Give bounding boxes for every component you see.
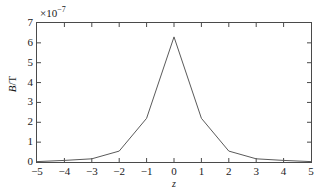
y-axis-tick-label: 6 xyxy=(11,36,33,48)
y-axis-tick-label: 2 xyxy=(11,115,33,127)
x-axis-tick-label: −4 xyxy=(53,165,75,177)
x-axis-tick-label: 3 xyxy=(245,165,267,177)
chart-figure: ×10−7 B/T z 01234567 −5−4−3−2−1012345 xyxy=(0,0,331,195)
x-axis-tick-label: 2 xyxy=(218,165,240,177)
y-axis-multiplier-exponent: −7 xyxy=(57,5,66,14)
x-axis-tick-label: 5 xyxy=(300,165,322,177)
y-axis-tick-label: 1 xyxy=(11,135,33,147)
y-axis-tick-label: 4 xyxy=(11,76,33,88)
y-axis-tick-label: 5 xyxy=(11,56,33,68)
plot-canvas xyxy=(37,23,311,162)
y-axis-multiplier-base: ×10 xyxy=(40,7,57,19)
y-axis-tick-label: 7 xyxy=(11,16,33,28)
x-axis-tick-label: −1 xyxy=(136,165,158,177)
axis-ticks xyxy=(37,23,311,162)
y-axis-multiplier-label: ×10−7 xyxy=(40,5,66,19)
y-axis-tick-label: 3 xyxy=(11,95,33,107)
x-axis-tick-label: 0 xyxy=(163,165,185,177)
x-axis-tick-label: 4 xyxy=(273,165,295,177)
data-series-line xyxy=(37,37,311,162)
x-axis-tick-label: −2 xyxy=(108,165,130,177)
x-axis-title: z xyxy=(152,178,196,189)
x-axis-tick-label: 1 xyxy=(190,165,212,177)
x-axis-tick-label: −3 xyxy=(81,165,103,177)
x-axis-tick-label: −5 xyxy=(26,165,48,177)
plot-area xyxy=(36,22,312,163)
